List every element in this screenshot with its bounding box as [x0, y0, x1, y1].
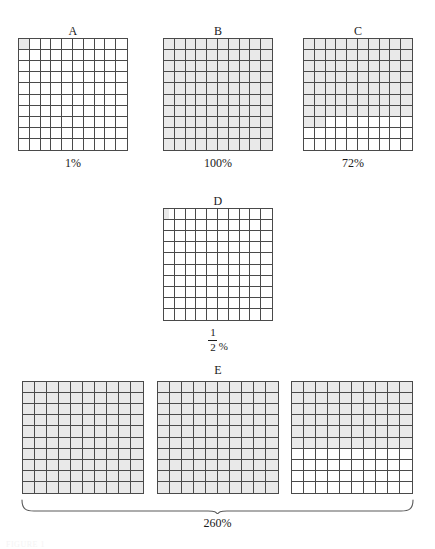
grid-cell — [35, 482, 47, 493]
grid-cell — [229, 253, 240, 264]
grid-cell — [194, 393, 206, 404]
grid-cell — [352, 482, 364, 493]
grid-cell — [304, 471, 316, 482]
grid-cell — [186, 242, 197, 253]
grid-cell — [23, 460, 35, 471]
grid-cell — [328, 382, 340, 393]
grid-cell — [73, 72, 84, 83]
grid-cell — [340, 482, 352, 493]
grid-cell — [196, 265, 207, 276]
grid-cell — [401, 117, 412, 128]
grid-cell — [23, 426, 35, 437]
grid-cell — [400, 438, 412, 449]
grid-cell — [364, 393, 376, 404]
grid-cell — [230, 404, 242, 415]
grid-cell — [347, 117, 358, 128]
grid-cell — [250, 209, 261, 220]
grid-cell — [107, 449, 119, 460]
grid-cell — [388, 460, 400, 471]
grid-cell — [186, 220, 197, 231]
grid-cell — [347, 50, 358, 61]
grid-cell — [242, 382, 254, 393]
grid-cell — [229, 50, 240, 61]
grid-cell — [30, 95, 41, 106]
grid-cell — [62, 83, 73, 94]
grid-cell — [218, 231, 229, 242]
grid-cell — [358, 139, 369, 150]
grid-cell — [254, 482, 266, 493]
grid-cell — [364, 438, 376, 449]
grid-cell — [196, 50, 207, 61]
grid-cell — [83, 426, 95, 437]
grid-cell — [304, 83, 315, 94]
grid-cell — [240, 253, 251, 264]
grid-cell — [164, 209, 175, 220]
grid-cell — [254, 426, 266, 437]
grid-cell — [119, 415, 131, 426]
grid-cell — [95, 50, 106, 61]
grid-cell — [47, 460, 59, 471]
grid-cell — [73, 83, 84, 94]
grid-cell — [35, 404, 47, 415]
grid-cell — [364, 426, 376, 437]
grid-cell — [336, 72, 347, 83]
grid-cell — [164, 276, 175, 287]
grid-cell — [380, 72, 391, 83]
grid-cells-b — [163, 38, 273, 151]
grid-cell — [83, 393, 95, 404]
grid-cell — [95, 382, 107, 393]
grid-cell — [41, 72, 52, 83]
grid-cell — [105, 128, 116, 139]
grid-cell — [315, 139, 326, 150]
grid-cell — [116, 39, 127, 50]
grid-cell — [304, 117, 315, 128]
grid-cell — [196, 220, 207, 231]
grid-cell — [207, 72, 218, 83]
grid-cell — [116, 106, 127, 117]
grid-cell — [250, 231, 261, 242]
grid-cell — [240, 72, 251, 83]
grid-cell — [254, 415, 266, 426]
grid-cell — [250, 106, 261, 117]
grid-cell — [41, 139, 52, 150]
grid-cell — [164, 309, 175, 320]
grid-cell — [358, 95, 369, 106]
grid-cell — [164, 265, 175, 276]
grid-cell — [186, 61, 197, 72]
grid-cell — [304, 39, 315, 50]
grid-cell — [240, 298, 251, 309]
fraction-numerator: 1 — [208, 327, 218, 339]
grid-cell — [35, 449, 47, 460]
grid-cell — [266, 382, 278, 393]
grid-cell — [400, 415, 412, 426]
grid-cell — [131, 393, 143, 404]
grid-cell — [352, 471, 364, 482]
grid-cell — [304, 139, 315, 150]
grid-cell — [250, 265, 261, 276]
grid-cell — [229, 72, 240, 83]
grid-cell — [340, 415, 352, 426]
grid-cell — [158, 460, 170, 471]
grid-cell — [196, 106, 207, 117]
grid-cell — [376, 471, 388, 482]
grid-cell — [347, 95, 358, 106]
grid-cell — [254, 393, 266, 404]
grid-cell — [73, 50, 84, 61]
grid-cell — [364, 449, 376, 460]
grid-cell — [182, 382, 194, 393]
grid-cell — [30, 106, 41, 117]
grid-cell — [47, 438, 59, 449]
grid-cell — [194, 438, 206, 449]
grid-cell — [186, 106, 197, 117]
grid-cell — [218, 50, 229, 61]
grid-cell — [328, 482, 340, 493]
grid-cell — [250, 287, 261, 298]
grid-cell — [230, 393, 242, 404]
grid-cell — [315, 106, 326, 117]
grid-cell — [73, 117, 84, 128]
grid-cell — [328, 393, 340, 404]
grid-cell — [358, 117, 369, 128]
grid-cell — [175, 117, 186, 128]
grid-cell — [315, 128, 326, 139]
grid-cell — [119, 393, 131, 404]
